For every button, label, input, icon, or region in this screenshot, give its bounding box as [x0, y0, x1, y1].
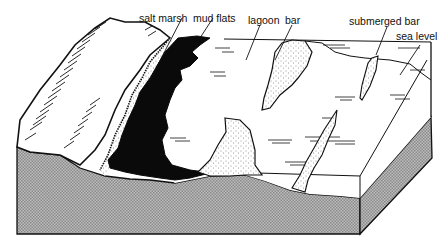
coastal-block-diagram: salt marsh mud flats lagoon bar submerge…: [0, 0, 447, 251]
label-mud-flats: mud flats: [193, 12, 236, 24]
label-salt-marsh: salt marsh: [139, 12, 188, 24]
label-lagoon: lagoon: [248, 14, 280, 26]
label-submerged-bar: submerged bar: [349, 15, 420, 27]
label-sea-level: sea level: [396, 30, 437, 42]
label-bar: bar: [285, 14, 301, 26]
